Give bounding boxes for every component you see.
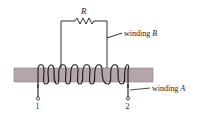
winding-diagram: R winding B winding A 1 2 — [0, 0, 200, 119]
resistor-label: R — [80, 6, 87, 16]
winding-b-label: winding B — [124, 29, 157, 38]
resistor-r — [75, 18, 94, 24]
winding-b-right-lead — [94, 21, 107, 68]
terminal-1[interactable] — [36, 97, 39, 100]
winding-b-label-var: B — [152, 29, 157, 38]
winding-b-label-text: winding — [124, 29, 152, 38]
winding-a-label-var: A — [179, 84, 185, 93]
terminal-2[interactable] — [126, 97, 129, 100]
terminal-1-label: 1 — [36, 102, 40, 111]
winding-a-label: winding A — [152, 84, 185, 93]
winding-a-label-text: winding — [152, 84, 180, 93]
winding-b-leader — [107, 33, 122, 38]
winding-b-left-lead — [61, 21, 75, 68]
winding-b-circuit — [61, 18, 122, 68]
terminal-2-label: 2 — [126, 102, 130, 111]
winding-a-leader — [130, 88, 150, 90]
